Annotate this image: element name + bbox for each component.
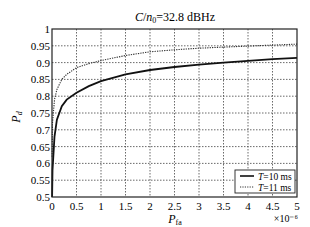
x-tick-label: 2.5 — [168, 200, 182, 212]
y-tick-label: 0.6 — [36, 157, 50, 169]
chart: C/n0=32.8 dBHz 0.50.550.60.650.70.750.80… — [0, 0, 310, 227]
series-line-t11 — [52, 44, 297, 157]
x-tick-label: 0.5 — [70, 200, 84, 212]
y-tick-label: 0.55 — [31, 174, 51, 186]
x-tick-label: 3 — [196, 200, 202, 212]
x-tick-label: 5 — [294, 200, 300, 212]
legend-item-t10: T=10 ms — [258, 172, 292, 182]
y-tick-label: 1 — [45, 23, 51, 35]
x-tick-label: 4.5 — [266, 200, 280, 212]
x-tick-label: 4 — [245, 200, 251, 212]
x-axis-multiplier: ×10⁻⁶ — [274, 213, 299, 224]
y-tick-label: 0.7 — [36, 124, 50, 136]
y-tick-label: 0.75 — [31, 107, 51, 119]
y-axis-ticks: 0.50.550.60.650.70.750.80.850.90.951 — [31, 23, 51, 203]
y-tick-label: 0.85 — [31, 73, 51, 85]
x-axis-ticks: 00.511.522.533.544.55 — [49, 200, 300, 212]
legend-item-t11: T=11 ms — [258, 183, 292, 193]
x-tick-label: 1 — [98, 200, 104, 212]
chart-title: C/n0=32.8 dBHz — [135, 10, 215, 25]
y-tick-label: 0.8 — [36, 90, 50, 102]
x-tick-label: 0 — [49, 200, 55, 212]
x-tick-label: 1.5 — [119, 200, 133, 212]
y-tick-label: 0.65 — [31, 141, 51, 153]
x-tick-label: 3.5 — [217, 200, 231, 212]
legend: T=10 ms T=11 ms — [235, 170, 295, 193]
x-axis-label: Pfa — [167, 212, 182, 227]
x-tick-label: 2 — [147, 200, 153, 212]
y-tick-label: 0.9 — [36, 57, 50, 69]
y-tick-label: 0.95 — [31, 40, 51, 52]
y-axis-label: Pd — [9, 110, 24, 123]
